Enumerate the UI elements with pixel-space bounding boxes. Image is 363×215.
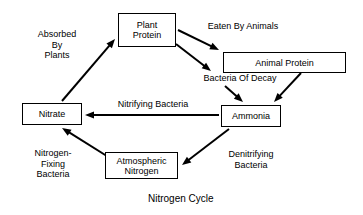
arrow-plant-protein-to-decay [176, 44, 211, 71]
arrow-decay-to-ammonia [225, 86, 243, 102]
node-nitrate: Nitrate [22, 103, 82, 125]
node-ammonia-label: Ammonia [232, 111, 270, 121]
node-animal-protein: Animal Protein [223, 52, 346, 73]
node-plant-protein-label: Plant Protein [133, 20, 162, 40]
nitrogen-cycle-diagram: Plant Protein Animal Protein Nitrate Amm… [0, 0, 363, 215]
node-ammonia: Ammonia [221, 105, 281, 127]
edge-label-absorbed-by-plants: Absorbed By Plants [27, 29, 87, 61]
node-animal-protein-label: Animal Protein [255, 58, 314, 68]
edge-label-nitrifying-bacteria: Nitrifying Bacteria [107, 99, 199, 110]
diagram-caption: Nitrogen Cycle [148, 193, 214, 205]
node-atmospheric-nitrogen-label: Atmospheric Nitrogen [116, 156, 166, 176]
node-nitrate-label: Nitrate [39, 109, 66, 119]
edge-label-denitrifying-bacteria: Denitrifying Bacteria [214, 149, 288, 170]
arrow-plant-protein-to-animal-protein [178, 30, 219, 50]
arrow-ammonia-to-nitrate [85, 111, 219, 118]
edge-label-bacteria-of-decay: Bacteria Of Decay [195, 73, 285, 84]
node-atmospheric-nitrogen: Atmospheric Nitrogen [105, 152, 178, 179]
node-plant-protein: Plant Protein [118, 13, 176, 47]
edge-label-nitrogen-fixing-bacteria: Nitrogen- Fixing Bacteria [25, 148, 81, 180]
edge-label-eaten-by-animals: Eaten By Animals [199, 21, 287, 32]
